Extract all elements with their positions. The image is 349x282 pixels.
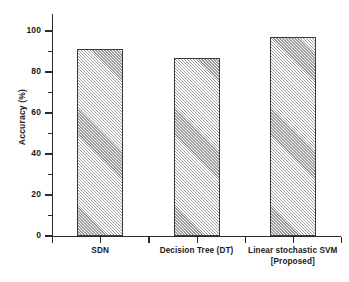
category-label-line: [Proposed] [234,256,349,267]
y-tick-60 [45,112,52,113]
bar-chart-figure: Accuracy (%) 020406080100 SDNDecision Tr… [0,0,349,282]
bar-2 [270,37,316,236]
y-tick-label-20: 20 [1,189,41,199]
y-tick-label-40: 40 [1,148,41,158]
y-tick-label-60: 60 [1,107,41,117]
y-tick-80 [45,71,52,72]
x-boundary-tick-3 [341,237,342,243]
bar-0 [77,49,123,236]
y-tick-20 [45,194,52,195]
category-label-line: Linear stochastic SVM [234,245,349,256]
y-minor-tick-50 [48,133,52,134]
y-tick-40 [45,153,52,154]
y-minor-tick-30 [48,174,52,175]
category-label-2: Linear stochastic SVM[Proposed] [234,245,349,267]
x-boundary-tick-0 [52,237,53,243]
y-minor-tick-70 [48,92,52,93]
y-tick-label-0: 0 [1,230,41,240]
y-minor-tick-100 [48,30,52,31]
x-boundary-tick-1 [148,237,149,243]
bar-1 [174,58,220,236]
y-tick-label-80: 80 [1,66,41,76]
x-center-tick-0 [100,237,101,243]
x-center-tick-1 [197,237,198,243]
y-minor-tick-90 [48,51,52,52]
y-tick-0 [45,235,52,236]
y-axis-line [52,14,53,237]
x-boundary-tick-2 [245,237,246,243]
y-tick-label-100: 100 [1,25,41,35]
x-center-tick-2 [293,237,294,243]
y-minor-tick-10 [48,215,52,216]
